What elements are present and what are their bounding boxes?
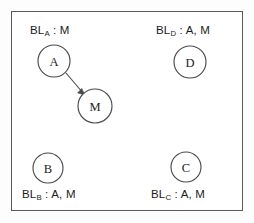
belief-label-c-value: A, M (181, 188, 205, 200)
belief-label-d-separator: : (176, 24, 186, 36)
belief-label-a-value: M (60, 24, 70, 36)
belief-label-b: BLB : A, M (22, 188, 76, 200)
belief-label-d-subscript: D (170, 29, 176, 38)
belief-label-c: BLC : A, M (151, 188, 205, 200)
belief-label-c-prefix: BL (151, 188, 165, 200)
belief-label-d-prefix: BL (156, 24, 170, 36)
belief-label-a: BLA : M (30, 24, 70, 36)
belief-label-c-separator: : (171, 188, 181, 200)
belief-label-b-value: A, M (51, 188, 75, 200)
diagram-frame (11, 11, 243, 211)
belief-label-b-separator: : (42, 188, 52, 200)
belief-label-a-prefix: BL (30, 24, 44, 36)
belief-label-b-prefix: BL (22, 188, 36, 200)
belief-label-d: BLD : A, M (156, 24, 210, 36)
belief-label-a-subscript: A (44, 29, 49, 38)
belief-label-a-separator: : (50, 24, 60, 36)
diagram-canvas: A M D B C BLA : M BLD : A, M BLB : A, M (0, 0, 254, 223)
belief-label-c-subscript: C (165, 193, 171, 202)
belief-label-b-subscript: B (36, 193, 41, 202)
belief-label-d-value: A, M (186, 24, 210, 36)
